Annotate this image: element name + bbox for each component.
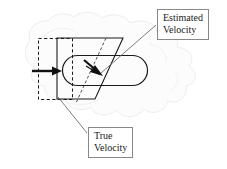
true-velocity-label: True Velocity <box>88 127 133 158</box>
true-velocity-label-line2: Velocity <box>94 142 127 154</box>
estimated-velocity-label-line1: Estimated <box>163 12 203 24</box>
diagram-figure: Estimated Velocity True Velocity <box>0 0 227 169</box>
estimated-velocity-label: Estimated Velocity <box>157 9 209 40</box>
true-velocity-label-line1: True <box>94 130 127 142</box>
estimated-velocity-label-line2: Velocity <box>163 24 203 36</box>
